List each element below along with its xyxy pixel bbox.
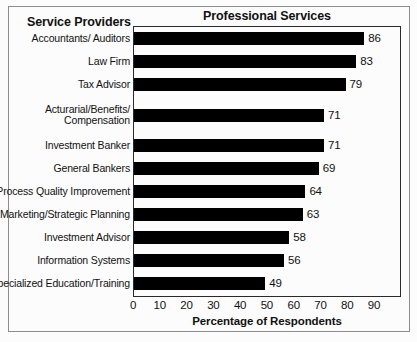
- bar-category-label: Process Quality Improvement: [0, 186, 130, 198]
- bar-row: Specialized Education/Training49: [0, 272, 417, 295]
- x-tick-label: 90: [368, 299, 380, 311]
- x-tick-label: 0: [130, 299, 136, 311]
- bar-row: Investment Banker71: [0, 134, 417, 157]
- x-tick-label: 50: [261, 299, 273, 311]
- bar-category-label: Investment Advisor: [0, 232, 130, 244]
- bar: [134, 208, 303, 221]
- bar-category-label: Accountants/ Auditors: [0, 33, 130, 45]
- x-tick-label: 80: [341, 299, 353, 311]
- bar-row: General Bankers69: [0, 157, 417, 180]
- bar-container: 71: [134, 96, 341, 134]
- bar-row: Accountants/ Auditors86: [0, 27, 417, 50]
- bar-row: Investment Advisor58: [0, 226, 417, 249]
- bar-container: 69: [134, 157, 335, 180]
- bar-value-label: 69: [323, 162, 335, 175]
- bar-value-label: 56: [288, 254, 300, 267]
- bar: [134, 55, 356, 68]
- bar-container: 79: [134, 73, 362, 96]
- bar-row: Acturarial/Benefits/ Compensation71: [0, 96, 417, 134]
- x-axis-ticks: 0102030405060708090: [133, 299, 401, 315]
- bar-value-label: 58: [293, 231, 305, 244]
- bar-row: Marketing/Strategic Planning63: [0, 203, 417, 226]
- bar-value-label: 63: [307, 208, 319, 221]
- chart-title: Professional Services: [133, 9, 401, 23]
- bar-value-label: 64: [309, 185, 321, 198]
- bar: [134, 109, 324, 122]
- bar-category-label: Information Systems: [0, 255, 130, 267]
- x-tick-label: 30: [207, 299, 219, 311]
- bar: [134, 162, 319, 175]
- x-tick-label: 70: [314, 299, 326, 311]
- bar-value-label: 86: [368, 32, 380, 45]
- bar: [134, 277, 265, 290]
- bar-category-label: Acturarial/Benefits/ Compensation: [0, 104, 130, 127]
- chart-figure: Service Providers Professional Services …: [0, 0, 417, 342]
- x-tick-label: 60: [287, 299, 299, 311]
- bar-container: 63: [134, 203, 319, 226]
- bar-container: 86: [134, 27, 381, 50]
- bar-row: Process Quality Improvement64: [0, 180, 417, 203]
- bar-container: 71: [134, 134, 341, 157]
- bar-row: Tax Advisor79: [0, 73, 417, 96]
- bar-container: 83: [134, 50, 373, 73]
- bar-container: 64: [134, 180, 322, 203]
- bar: [134, 78, 346, 91]
- bar-container: 49: [134, 272, 282, 295]
- bar-category-label: Law Firm: [0, 56, 130, 68]
- x-tick-label: 10: [154, 299, 166, 311]
- bar-value-label: 83: [360, 55, 372, 68]
- bar: [134, 32, 364, 45]
- bar-row: Information Systems56: [0, 249, 417, 272]
- bar-value-label: 71: [328, 109, 340, 122]
- bar-category-label: Tax Advisor: [0, 79, 130, 91]
- bar: [134, 185, 305, 198]
- bar-category-label: General Bankers: [0, 163, 130, 175]
- bar: [134, 139, 324, 152]
- bar: [134, 254, 284, 267]
- bar-row: Law Firm83: [0, 50, 417, 73]
- x-tick-label: 20: [180, 299, 192, 311]
- bar-container: 56: [134, 249, 300, 272]
- bar-container: 58: [134, 226, 306, 249]
- bar-value-label: 79: [350, 78, 362, 91]
- x-tick-label: 40: [234, 299, 246, 311]
- bar: [134, 231, 289, 244]
- bar-category-label: Marketing/Strategic Planning: [0, 209, 130, 221]
- x-axis-title: Percentage of Respondents: [133, 315, 401, 327]
- bar-category-label: Investment Banker: [0, 140, 130, 152]
- bar-category-label: Specialized Education/Training: [0, 278, 130, 290]
- bar-rows: Accountants/ Auditors86Law Firm83Tax Adv…: [0, 26, 417, 297]
- bar-value-label: 71: [328, 139, 340, 152]
- bar-value-label: 49: [269, 277, 281, 290]
